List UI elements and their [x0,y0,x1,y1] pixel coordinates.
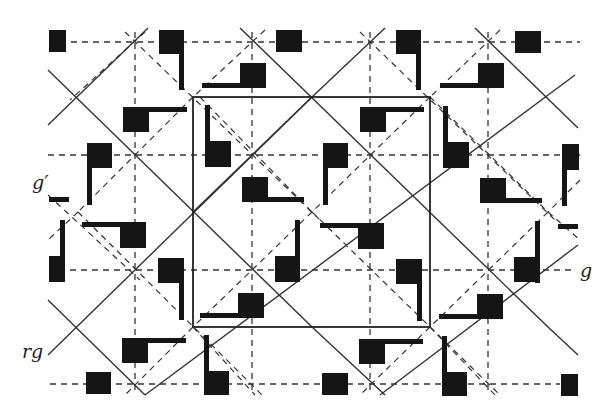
flag-motif [87,143,112,205]
flag-motif [158,258,184,320]
flag-motif [159,30,184,90]
flag-motif [275,220,300,282]
label-g-prime: g′ [32,171,49,193]
flag-motif [396,259,422,321]
flag-motif [443,106,469,168]
flag-motif [360,107,424,132]
flag-motif [480,178,542,203]
flag-motif [122,338,186,363]
flag-motif [562,144,579,206]
flag-motif [204,335,229,395]
flag-motif [202,63,266,88]
flag-motif [442,336,467,396]
flag-motif [200,293,264,318]
flag-motif [323,143,348,205]
flag-motif [320,223,384,249]
symmetry-diagram: g′ g rg [0,0,610,419]
flag-motif [242,177,304,202]
motifs [49,30,579,396]
label-g: g [580,259,592,281]
flag-motif [205,105,231,167]
flag-motif [49,220,65,282]
label-rg: rg [22,340,43,362]
flag-motif [359,339,423,364]
pattern-canvas: g′ g rg [0,0,610,419]
dashed-horizontal-lines [48,42,580,384]
flag-motif [440,63,504,88]
flag-motif [514,221,540,283]
dashed-vertical-lines [135,32,488,395]
flag-motif [396,30,421,90]
flag-motif [439,294,503,319]
flag-motif [123,107,187,132]
